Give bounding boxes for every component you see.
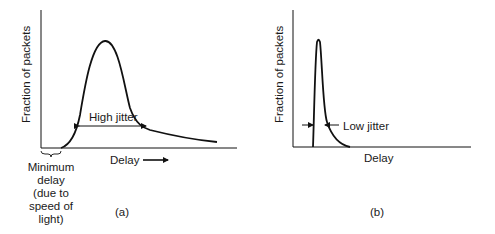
panel-b-y-axis-label: Fraction of packets bbox=[273, 26, 285, 123]
panel-a-x-axis-label: Delay bbox=[110, 154, 139, 167]
min-delay-line: Minimum bbox=[27, 161, 75, 174]
panel-b-x-axis-label: Delay bbox=[364, 152, 393, 165]
min-delay-line: delay bbox=[27, 174, 75, 187]
panel-a-y-axis-label: Fraction of packets bbox=[20, 26, 32, 123]
min-delay-line: light) bbox=[27, 213, 75, 226]
panel-a-caption: (a) bbox=[115, 206, 129, 219]
min-delay-line: (due to bbox=[27, 187, 75, 200]
panel-a-axes bbox=[41, 10, 237, 148]
min-delay-line: speed of bbox=[27, 200, 75, 213]
panel-b-caption: (b) bbox=[370, 206, 384, 219]
panel-a-distribution-curve bbox=[61, 41, 217, 148]
min-delay-brace bbox=[41, 151, 61, 157]
low-jitter-label: Low jitter bbox=[343, 120, 389, 133]
min-delay-label: Minimum delay (due to speed of light) bbox=[27, 161, 75, 226]
high-jitter-label: High jitter bbox=[89, 111, 138, 124]
